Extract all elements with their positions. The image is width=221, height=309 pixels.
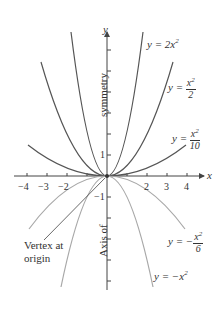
- y-tick-label: 1: [100, 150, 105, 160]
- x-tick-label: −3: [38, 182, 49, 192]
- x-tick-label: 2: [144, 182, 149, 192]
- x-tick-label: −2: [58, 182, 69, 192]
- label-x2over10: y = x210: [172, 128, 200, 151]
- label-2x2: y = 2x2: [147, 38, 179, 50]
- x-tick-label: 4: [184, 182, 189, 192]
- vertex-label-line2: origin: [24, 253, 50, 264]
- axis-of-text: Axis of: [97, 224, 109, 257]
- label-negx2over6: y = −x26: [168, 231, 203, 254]
- x-tick-label: 3: [164, 182, 169, 192]
- vertex-dot: [105, 174, 109, 178]
- y-axis-label: y: [103, 24, 108, 35]
- x-axis-label: x: [207, 170, 212, 181]
- label-x2over2: y = x22: [168, 77, 196, 100]
- label-negx2: y = −x2: [154, 270, 188, 282]
- y-tick-label: −1: [94, 192, 105, 202]
- axis-symmetry-text: symmetry: [97, 73, 109, 117]
- x-tick-label: −4: [18, 182, 29, 192]
- vertex-label-line1: Vertex at: [24, 240, 63, 251]
